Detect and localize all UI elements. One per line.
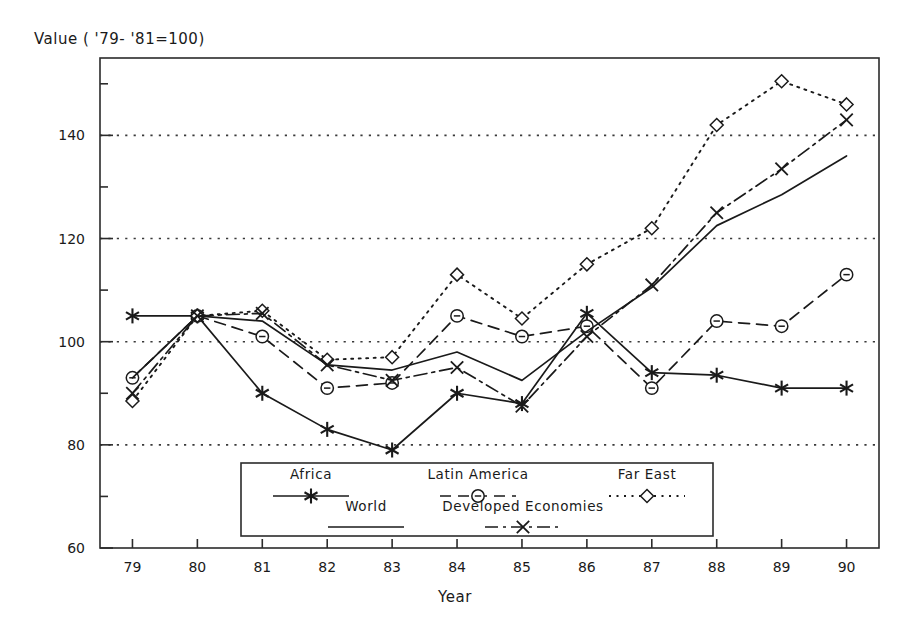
data-point-marker — [710, 119, 723, 132]
x-tick-label: 90 — [838, 559, 856, 575]
y-tick-label: 120 — [58, 231, 85, 247]
x-tick-label: 80 — [188, 559, 206, 575]
x-tick-label: 88 — [708, 559, 726, 575]
x-tick-label: 81 — [253, 559, 271, 575]
x-tick-label: 86 — [578, 559, 596, 575]
x-tick-label: 79 — [124, 559, 142, 575]
data-point-marker — [645, 222, 658, 235]
series-line — [132, 81, 846, 401]
data-series-layer — [126, 75, 853, 458]
y-tick-label: 140 — [58, 127, 85, 143]
line-chart-plot: 6080100120140 798081828384858687888990 A… — [0, 0, 910, 630]
data-point-marker — [840, 98, 853, 111]
data-point-marker — [515, 312, 528, 325]
data-point-marker — [775, 75, 788, 88]
x-tick-label: 82 — [318, 559, 336, 575]
legend-label-latin-america: Latin America — [427, 466, 528, 482]
data-point-marker — [126, 395, 139, 408]
x-tick-label: 83 — [383, 559, 401, 575]
x-tick-label: 84 — [448, 559, 466, 575]
chart-container: Value ( '79- '81=100) Year 6080100120140… — [0, 0, 910, 630]
y-tick-label: 100 — [58, 334, 85, 350]
series-developed-economies — [126, 114, 852, 413]
x-tick-label: 85 — [513, 559, 531, 575]
series-latin-america — [126, 268, 852, 394]
y-axis-tick-labels: 6080100120140 — [58, 127, 85, 556]
legend-label-world: World — [345, 498, 387, 514]
data-point-marker — [451, 268, 464, 281]
y-tick-label: 60 — [67, 540, 85, 556]
series-line — [132, 275, 846, 388]
series-line — [132, 120, 846, 406]
legend-label-far-east: Far East — [618, 466, 677, 482]
y-tick-label: 80 — [67, 437, 85, 453]
legend-label-africa: Africa — [290, 466, 332, 482]
x-axis-tick-labels: 798081828384858687888990 — [124, 559, 856, 575]
series-world — [132, 156, 846, 380]
legend-label-developed-economies: Developed Economies — [442, 498, 603, 514]
series-far-east — [126, 75, 853, 408]
x-tick-label: 89 — [773, 559, 791, 575]
x-tick-label: 87 — [643, 559, 661, 575]
series-line — [132, 313, 846, 450]
data-point-marker — [256, 304, 269, 317]
series-line — [132, 156, 846, 380]
chart-legend: AfricaLatin AmericaFar EastWorldDevelope… — [241, 463, 713, 536]
